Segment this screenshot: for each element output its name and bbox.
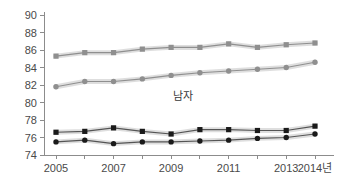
data-point-marker — [197, 70, 202, 75]
series-annotation-label: 남자 — [173, 90, 193, 103]
y-tick-group: 747678808284868890 — [25, 9, 44, 161]
data-point-marker — [255, 136, 260, 141]
data-point-marker — [53, 139, 58, 144]
series-halo — [56, 43, 315, 56]
data-point-marker — [53, 54, 58, 59]
x-tick-label: 2011 — [217, 162, 241, 174]
y-tick-label: 84 — [25, 62, 37, 74]
data-point-marker — [169, 45, 174, 50]
y-tick-label: 78 — [25, 114, 37, 126]
data-point-marker — [82, 129, 87, 134]
data-point-marker — [197, 138, 202, 143]
data-point-marker — [111, 50, 116, 55]
x-tick-group: 200520072009201120132014년 — [44, 155, 332, 174]
series-halo — [56, 134, 315, 144]
data-point-marker — [255, 128, 260, 133]
y-tick-label: 74 — [25, 149, 37, 161]
x-tick-label: 2007 — [101, 162, 125, 174]
data-point-marker — [312, 124, 317, 129]
data-point-marker — [197, 45, 202, 50]
data-point-marker — [197, 127, 202, 132]
data-point-marker — [168, 139, 173, 144]
line-chart: 747678808284868890 200520072009201120132… — [0, 0, 360, 186]
y-tick-label: 86 — [25, 44, 37, 56]
y-tick-label: 76 — [25, 132, 37, 144]
data-point-marker — [284, 135, 289, 140]
data-point-marker — [82, 50, 87, 55]
y-tick-label: 88 — [25, 27, 37, 39]
y-tick-label: 82 — [25, 79, 37, 91]
series-black-square-lower — [53, 124, 317, 137]
x-tick-label: 2013 — [274, 162, 298, 174]
data-point-marker — [82, 137, 87, 142]
data-point-marker — [312, 131, 317, 136]
data-point-marker — [168, 73, 173, 78]
chart-plot-area: 747678808284868890 200520072009201120132… — [0, 0, 360, 186]
data-point-marker — [111, 125, 116, 130]
data-point-marker — [140, 129, 145, 134]
y-tick-label: 80 — [25, 97, 37, 109]
data-point-marker — [53, 130, 58, 135]
series-gray-square-upper — [53, 40, 317, 58]
data-point-marker — [111, 79, 116, 84]
data-point-marker — [255, 67, 260, 72]
data-point-marker — [111, 141, 116, 146]
data-point-marker — [140, 47, 145, 52]
data-point-marker — [284, 42, 289, 47]
data-point-marker — [82, 79, 87, 84]
data-point-marker — [284, 128, 289, 133]
x-tick-label: 2005 — [44, 162, 68, 174]
data-point-marker — [140, 139, 145, 144]
series-gray-circle-upper — [53, 60, 317, 90]
data-point-marker — [226, 137, 231, 142]
data-point-marker — [312, 40, 317, 45]
data-point-marker — [284, 65, 289, 70]
data-point-marker — [169, 131, 174, 136]
y-axis: 747678808284868890 — [25, 9, 44, 161]
data-point-marker — [255, 45, 260, 50]
annotation-group: 남자 — [173, 90, 193, 103]
data-point-marker — [226, 68, 231, 73]
data-point-marker — [226, 41, 231, 46]
x-axis: 200520072009201120132014년 — [44, 155, 334, 174]
x-tick-label: 2009 — [159, 162, 183, 174]
x-tick-label: 2014년 — [298, 162, 332, 174]
data-point-marker — [226, 127, 231, 132]
data-point-marker — [312, 60, 317, 65]
data-point-marker — [53, 84, 58, 89]
y-tick-label: 90 — [25, 9, 37, 21]
data-point-marker — [140, 76, 145, 81]
